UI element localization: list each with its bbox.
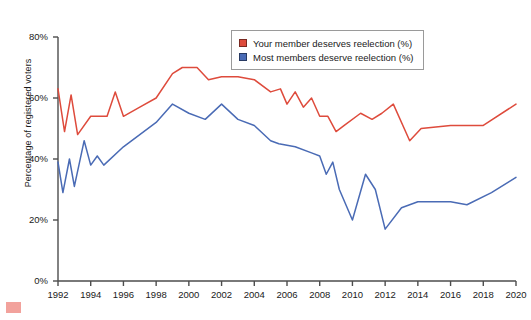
chart-axes [53, 37, 516, 286]
x-tick-label: 2018 [465, 289, 501, 300]
x-tick-label: 1992 [40, 289, 76, 300]
x-tick-label: 1998 [138, 289, 174, 300]
legend-swatch-blue [239, 53, 247, 61]
x-tick-label: 2012 [367, 289, 403, 300]
x-tick-label: 2006 [269, 289, 305, 300]
x-tick-label: 1994 [73, 289, 109, 300]
legend-item-your-member: Your member deserves reelection (%) [239, 36, 414, 50]
chart-series [58, 68, 516, 230]
x-tick-label: 2002 [204, 289, 240, 300]
x-tick-label: 2020 [498, 289, 531, 300]
y-tick-label: 40% [16, 153, 48, 164]
series-line-your-member [58, 68, 516, 141]
x-tick-label: 1996 [105, 289, 141, 300]
legend-label-most-members: Most members deserve reelection (%) [253, 52, 414, 63]
x-tick-label: 2016 [433, 289, 469, 300]
y-axis-title: Percentage of registered voters [23, 33, 33, 213]
y-tick-label: 20% [16, 214, 48, 225]
x-tick-label: 2014 [400, 289, 436, 300]
legend-swatch-red [239, 39, 247, 47]
x-tick-label: 2000 [171, 289, 207, 300]
x-tick-label: 2008 [302, 289, 338, 300]
page-corner-marker [6, 302, 21, 313]
legend-label-your-member: Your member deserves reelection (%) [253, 38, 412, 49]
y-tick-label: 60% [16, 92, 48, 103]
legend-item-most-members: Most members deserve reelection (%) [239, 50, 414, 64]
x-tick-label: 2004 [236, 289, 272, 300]
y-tick-label: 80% [16, 31, 48, 42]
chart-legend: Your member deserves reelection (%) Most… [231, 30, 424, 70]
x-tick-label: 2010 [334, 289, 370, 300]
y-tick-label: 0% [16, 275, 48, 286]
series-line-most-members [58, 104, 516, 229]
